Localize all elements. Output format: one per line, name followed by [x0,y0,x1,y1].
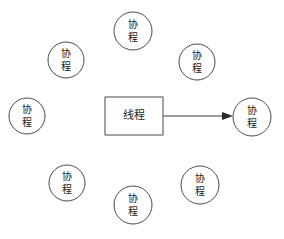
thread-node-label: 线程 [123,108,145,122]
edge-arrowhead-icon [222,112,233,120]
diagram-svg: 线程协程协程协程协程协程协程协程协程 [0,0,284,239]
edge-thread-to-coroutine[interactable] [163,112,233,120]
diagram-canvas: 线程协程协程协程协程协程协程协程协程 [0,0,284,239]
node-coroutine-upper-left[interactable]: 协程 [48,42,84,78]
node-coroutine-far-left[interactable]: 协程 [9,98,45,134]
nodes-group: 线程协程协程协程协程协程协程协程协程 [9,12,271,224]
node-coroutine-upper-right[interactable]: 协程 [179,44,215,80]
edges-group [163,112,233,120]
node-coroutine-lower-left[interactable]: 协程 [49,165,85,201]
node-coroutine-bottom-center[interactable]: 协程 [114,186,152,224]
node-coroutine-lower-right[interactable]: 协程 [181,166,219,204]
node-coroutine-target-right[interactable]: 协程 [233,98,271,136]
node-thread[interactable]: 线程 [105,97,163,135]
node-coroutine-top-center[interactable]: 协程 [114,12,152,50]
